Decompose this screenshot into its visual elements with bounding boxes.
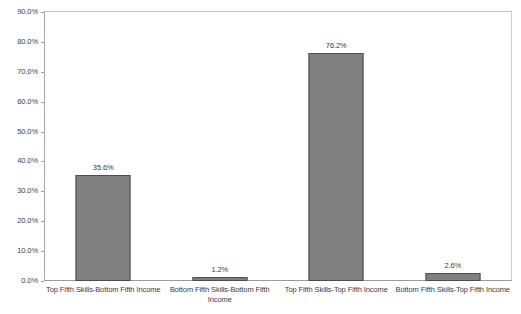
y-axis-tick-label: 80.0% bbox=[17, 36, 38, 48]
bar-slot: 35.6% bbox=[45, 12, 162, 281]
y-axis-tick-mark bbox=[41, 161, 44, 162]
y-axis-tick-mark bbox=[41, 221, 44, 222]
y-axis-tick-label: 40.0% bbox=[17, 155, 38, 167]
y-axis-tick-label: 10.0% bbox=[17, 245, 38, 257]
bar-slot: 2.6% bbox=[395, 12, 512, 281]
y-axis-tick-mark bbox=[41, 132, 44, 133]
y-axis-tick-label: 60.0% bbox=[17, 96, 38, 108]
bar bbox=[192, 277, 247, 281]
y-axis-tick-mark bbox=[41, 251, 44, 252]
bars-layer: 35.6%1.2%76.2%2.6% bbox=[45, 12, 511, 281]
bar-value-label: 2.6% bbox=[444, 261, 461, 270]
y-axis-tick-mark bbox=[41, 42, 44, 43]
y-axis-tick-label: 70.0% bbox=[17, 66, 38, 78]
y-axis: 0.0%10.0%20.0%30.0%40.0%50.0%60.0%70.0%8… bbox=[0, 0, 44, 292]
x-axis-category-label: Bottom Fifth Skills-Bottom Fifth Income bbox=[158, 285, 282, 305]
bar-chart: 0.0%10.0%20.0%30.0%40.0%50.0%60.0%70.0%8… bbox=[0, 0, 521, 314]
bar-slot: 1.2% bbox=[162, 12, 279, 281]
y-axis-tick-label: 0.0% bbox=[21, 275, 38, 287]
y-axis-tick-mark bbox=[41, 72, 44, 73]
bar-value-label: 1.2% bbox=[211, 265, 228, 274]
bar-slot: 76.2% bbox=[278, 12, 395, 281]
y-axis-tick-label: 90.0% bbox=[17, 6, 38, 18]
y-axis-tick-label: 30.0% bbox=[17, 185, 38, 197]
bar bbox=[76, 175, 131, 281]
y-axis-tick-mark bbox=[41, 102, 44, 103]
bar bbox=[425, 273, 480, 281]
x-axis-labels: Top Fifth Skills-Bottom Fifth IncomeBott… bbox=[45, 285, 511, 314]
bar-value-label: 76.2% bbox=[326, 41, 347, 50]
x-axis-category-label: Top Fifth Skills-Bottom Fifth Income bbox=[41, 285, 165, 295]
y-axis-tick-mark bbox=[41, 191, 44, 192]
y-axis-tick-mark bbox=[41, 281, 44, 282]
bar-value-label: 35.6% bbox=[93, 163, 114, 172]
y-axis-tick-mark bbox=[41, 12, 44, 13]
bar bbox=[309, 53, 364, 281]
y-axis-tick-label: 50.0% bbox=[17, 126, 38, 138]
x-axis-category-label: Top Fifth Skills-Top Fifth Income bbox=[274, 285, 398, 295]
y-axis-tick-label: 20.0% bbox=[17, 215, 38, 227]
x-axis-category-label: Bottom Fifth Skills-Top Fifth Income bbox=[391, 285, 515, 295]
